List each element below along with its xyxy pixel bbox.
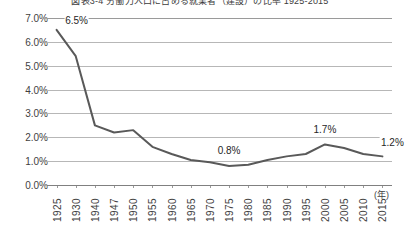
y-tick-label: 5.0% [8,60,48,71]
data-label: 0.8% [217,144,242,155]
x-tick-label: 1955 [147,188,158,222]
x-tick-label: 1985 [262,188,273,222]
y-tick-label: 3.0% [8,108,48,119]
x-tick-label: 1970 [205,188,216,222]
x-tick-label: 1947 [109,188,120,222]
x-tick-label: 2010 [358,188,369,222]
x-tick-label: 1925 [52,188,63,222]
x-tick-label: 1965 [186,188,197,222]
chart-title: 図表3-4 労働力人口に占める就業者（建設）の比率 1925-2015 [0,0,400,7]
x-tick-label: 1940 [90,188,101,222]
x-tick-label: 1975 [224,188,235,222]
y-tick-label: 7.0% [8,13,48,24]
series-line-chart [47,18,392,185]
x-tick-label: 1960 [167,188,178,222]
gridline-0.0 [47,185,392,186]
plot-area [47,18,392,185]
x-tick-label: 1930 [71,188,82,222]
data-label: 1.7% [313,124,338,135]
y-tick-label: 4.0% [8,84,48,95]
y-tick-label: 1.0% [8,156,48,167]
x-tick-label: 1950 [128,188,139,222]
x-tick-label: 1980 [243,188,254,222]
y-tick-label: 6.0% [8,36,48,47]
data-label: 1.2% [380,137,405,148]
y-tick-label: 2.0% [8,132,48,143]
x-tick-label: 2005 [339,188,350,222]
data-label: 6.5% [64,14,89,25]
x-tick-label: 1990 [282,188,293,222]
y-tick-label: 0.0% [8,180,48,191]
x-tick-label: 2000 [320,188,331,222]
x-axis-unit-label: (年) [374,188,389,201]
x-tick-label: 1995 [301,188,312,222]
